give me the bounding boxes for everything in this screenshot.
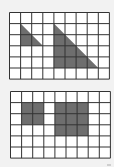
squares-grid: [10, 91, 111, 159]
triangles-grid: [9, 12, 110, 80]
square-shape: [55, 103, 88, 136]
corner-mark: [107, 164, 111, 166]
